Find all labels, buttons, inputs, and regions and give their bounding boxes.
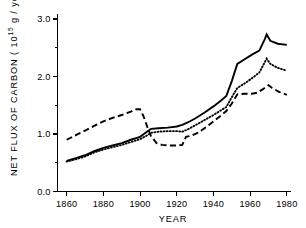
y-ticklabel: 2.0 <box>37 72 50 82</box>
data-series-group <box>67 35 287 162</box>
x-ticklabel: 1860 <box>56 199 77 209</box>
y-ticklabel: 3.0 <box>37 14 50 24</box>
series-solid <box>67 35 287 162</box>
series-dotted <box>67 59 287 162</box>
x-axis-ticklabels: 1860188019001920194019601980 <box>56 199 297 209</box>
x-ticklabel: 1960 <box>240 199 261 209</box>
x-ticklabel: 1980 <box>276 199 297 209</box>
x-ticklabel: 1900 <box>129 199 150 209</box>
y-axis-ticks <box>53 19 58 192</box>
chart-figure: NET FLUX OF CARBON ( 1015 g / year) 0.01… <box>0 0 306 228</box>
y-axis-ticklabels: 0.01.02.03.0 <box>37 14 50 197</box>
x-axis-ticks <box>67 192 287 197</box>
svg-text:NET FLUX OF CARBON ( 1015 g /: NET FLUX OF CARBON ( 1015 g / year) <box>7 0 19 176</box>
y-axis-title: NET FLUX OF CARBON ( 1015 g / year) <box>7 0 19 176</box>
y-axis-title-exponent: 15 <box>7 27 14 36</box>
x-ticklabel: 1920 <box>166 199 187 209</box>
x-ticklabel: 1880 <box>93 199 114 209</box>
x-ticklabel: 1940 <box>203 199 224 209</box>
x-axis-title: YEAR <box>159 214 188 224</box>
line-chart: NET FLUX OF CARBON ( 1015 g / year) 0.01… <box>0 0 306 228</box>
y-axis-title-tail: g / year) <box>9 0 19 27</box>
series-dashed <box>67 85 287 145</box>
y-ticklabel: 0.0 <box>37 187 50 197</box>
y-axis-title-main: NET FLUX OF CARBON ( 10 <box>9 35 19 176</box>
y-ticklabel: 1.0 <box>37 129 50 139</box>
